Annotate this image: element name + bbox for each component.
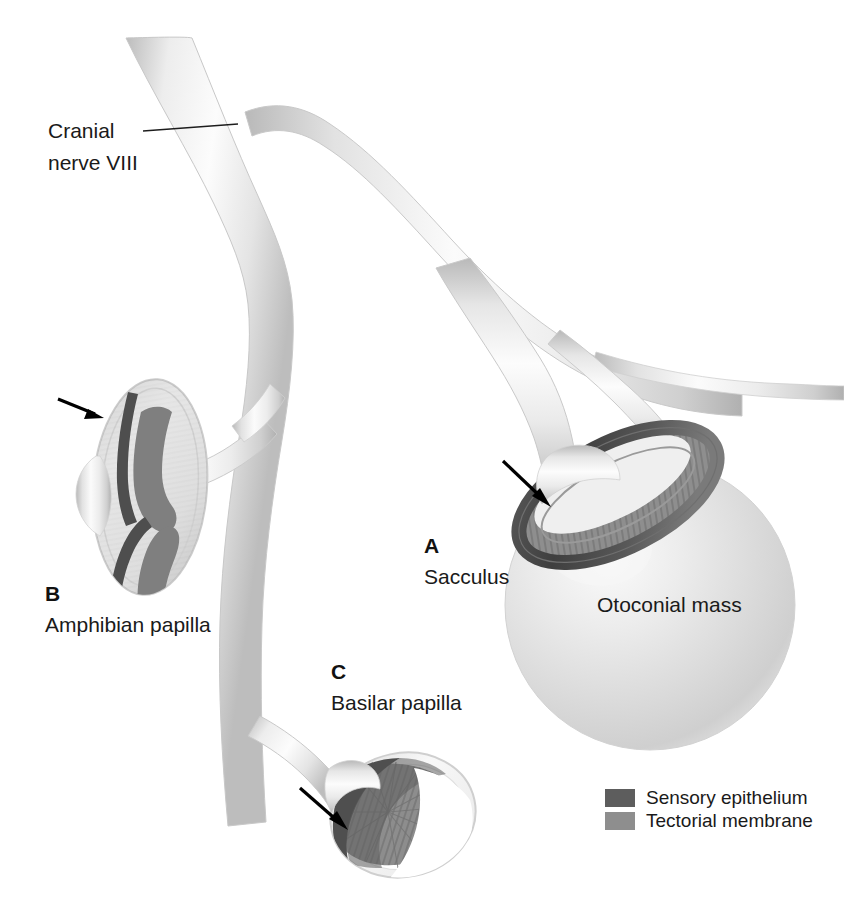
legend-swatch-tectorial-membrane bbox=[605, 812, 635, 830]
panel-b-name: Amphibian papilla bbox=[45, 613, 211, 636]
amphibian-papilla-nerve-junction bbox=[76, 456, 111, 536]
legend-label-tectorial-membrane: Tectorial membrane bbox=[646, 810, 813, 831]
cranial-nerve-label-line1: Cranial bbox=[48, 119, 115, 142]
panel-c-name: Basilar papilla bbox=[331, 691, 462, 714]
legend-swatch-sensory-epithelium bbox=[605, 789, 635, 807]
panel-b-letter: B bbox=[45, 582, 60, 605]
panel-a-sacculus-group: A Sacculus Otoconial mass bbox=[424, 400, 795, 750]
figure-canvas: A Sacculus Otoconial mass B Amphi bbox=[0, 0, 844, 912]
panel-a-letter: A bbox=[424, 534, 439, 557]
anatomical-figure: A Sacculus Otoconial mass B Amphi bbox=[0, 0, 844, 912]
cranial-nerve-label-line2: nerve VIII bbox=[48, 151, 138, 174]
legend-label-sensory-epithelium: Sensory epithelium bbox=[646, 787, 808, 808]
legend: Sensory epithelium Tectorial membrane bbox=[605, 787, 813, 831]
panel-a-name: Sacculus bbox=[424, 565, 509, 588]
panel-c-letter: C bbox=[331, 660, 346, 683]
arrow-to-amphibian-papilla bbox=[58, 399, 104, 419]
panel-c-basilar-papilla-group: C Basilar papilla bbox=[300, 660, 487, 891]
panel-b-amphibian-papilla-group: B Amphibian papilla bbox=[45, 375, 214, 636]
nerve-branch-upper-right bbox=[245, 106, 742, 416]
otoconial-mass-label: Otoconial mass bbox=[597, 593, 742, 616]
